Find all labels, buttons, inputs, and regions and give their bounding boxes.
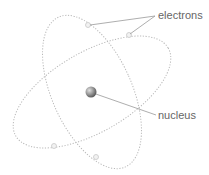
electron-top bbox=[86, 23, 91, 28]
nucleus-sphere bbox=[86, 87, 97, 98]
electrons-leader-1 bbox=[90, 16, 155, 25]
atom-diagram bbox=[0, 0, 209, 175]
nucleus-label: nucleus bbox=[158, 110, 196, 121]
electrons-label: electrons bbox=[158, 10, 203, 21]
electron-bottom bbox=[94, 155, 99, 160]
nucleus-leader bbox=[93, 93, 156, 115]
electron-bottom-left bbox=[52, 144, 57, 149]
